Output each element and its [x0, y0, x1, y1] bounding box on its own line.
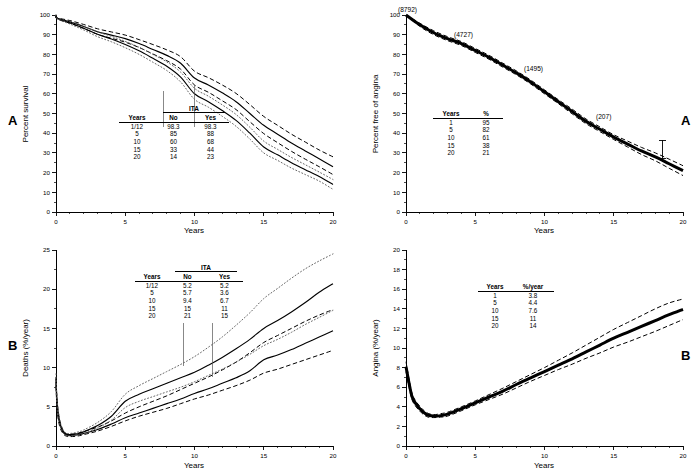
annotation-1495: (1495)	[524, 65, 543, 72]
svg-text:40: 40	[393, 129, 400, 136]
table-row: 1/1298.398.3	[119, 122, 229, 130]
table-cell: 21	[469, 149, 503, 157]
table-cell: 11	[512, 315, 554, 323]
table-cell: 95	[469, 118, 503, 126]
svg-text:30: 30	[393, 149, 400, 156]
svg-text:4: 4	[397, 403, 401, 410]
table-row: 2021	[433, 149, 503, 157]
inset-table-top-left: ITA Years No Yes 1/1298.398.358588106068…	[119, 105, 229, 161]
table-cell: 20	[433, 149, 469, 157]
svg-text:0: 0	[47, 442, 51, 449]
table-row: 2014	[478, 322, 554, 330]
table-header-row: Years %	[433, 110, 503, 118]
series-curve	[406, 320, 683, 418]
table-cell: 6.7	[206, 297, 243, 305]
table-row: 106068	[119, 138, 229, 146]
series-curve	[56, 310, 333, 435]
table-cell: 11	[206, 305, 243, 313]
col-years: Years	[433, 110, 469, 118]
col-yes: Yes	[192, 114, 229, 122]
svg-text:60: 60	[393, 90, 400, 97]
table-cell: 33	[155, 146, 192, 154]
svg-text:20: 20	[330, 452, 337, 459]
table-cell: 5	[119, 130, 155, 138]
svg-text:5: 5	[124, 452, 128, 459]
table-row: 582	[433, 126, 503, 134]
svg-text:10: 10	[191, 452, 198, 459]
table-cell: 23	[192, 153, 229, 161]
table-cell: 21	[169, 312, 206, 320]
col-percent: %	[469, 110, 503, 118]
svg-text:70: 70	[393, 70, 400, 77]
table-cell: 1/12	[119, 122, 155, 130]
x-axis-title-top-right: Years	[534, 226, 554, 235]
annotation-8792: (8792)	[398, 6, 417, 13]
svg-text:50: 50	[43, 110, 50, 117]
table-row: 1511	[478, 315, 554, 323]
table-row: 13.8	[478, 291, 554, 299]
table-cell: 98.3	[192, 122, 229, 130]
table-cell: 15	[478, 315, 512, 323]
svg-text:0: 0	[397, 208, 401, 215]
error-bar-top-right	[659, 140, 666, 158]
svg-text:0: 0	[54, 218, 58, 225]
svg-text:90: 90	[43, 31, 50, 38]
chart-top-right-angina-free: 0102030405060708090100 05101520 Percent …	[350, 0, 699, 238]
table-cell: 4.4	[512, 299, 554, 307]
y-axis-title-top-right: Percent free of angina	[371, 74, 380, 153]
col-years: Years	[135, 273, 169, 281]
svg-text:25: 25	[43, 246, 50, 253]
table-cell: 10	[478, 307, 512, 315]
col-years: Years	[478, 283, 512, 291]
svg-text:10: 10	[541, 452, 548, 459]
table-row: 109.46.7	[135, 297, 243, 305]
x-axis-title-bottom-left: Years	[184, 461, 204, 470]
table-row: 1/125.25.2	[135, 281, 243, 289]
chart-bottom-right-angina: 02468101214161820 05101520 Angina (%/yea…	[350, 238, 699, 475]
table-cell: 1	[478, 291, 512, 299]
leader-lines-bottom-left	[183, 323, 212, 377]
table-cell: 15	[433, 142, 469, 150]
table-cell: 68	[192, 138, 229, 146]
table-cell: 85	[155, 130, 192, 138]
svg-text:90: 90	[393, 31, 400, 38]
col-percent-year: %/year	[512, 283, 554, 291]
svg-text:14: 14	[393, 305, 400, 312]
table-row: 1061	[433, 134, 503, 142]
svg-text:12: 12	[393, 325, 400, 332]
svg-text:10: 10	[541, 218, 548, 225]
table-cell: 1	[433, 118, 469, 126]
svg-text:10: 10	[393, 189, 400, 196]
svg-text:100: 100	[40, 11, 51, 18]
table-row: 151511	[135, 305, 243, 313]
table-cell: 5	[433, 126, 469, 134]
svg-text:20: 20	[330, 218, 337, 225]
panel-letter-top-right: A	[681, 113, 690, 128]
panel-bottom-left: B 0510152025 05101520 Deaths (%/year) Ye…	[0, 238, 350, 475]
svg-text:2: 2	[397, 423, 401, 430]
svg-text:80: 80	[393, 51, 400, 58]
table-cell: 20	[119, 153, 155, 161]
table-cell: 60	[155, 138, 192, 146]
svg-text:0: 0	[54, 452, 58, 459]
table-cell: 98.3	[155, 122, 192, 130]
svg-text:0: 0	[397, 442, 401, 449]
svg-text:0: 0	[47, 208, 51, 215]
svg-text:18: 18	[393, 266, 400, 273]
panel-top-left: A 0102030405060708090100 05101520 Percen…	[0, 0, 350, 238]
table-row: 55.73.6	[135, 289, 243, 297]
svg-text:40: 40	[43, 129, 50, 136]
svg-text:5: 5	[47, 403, 51, 410]
table-cell: 88	[192, 130, 229, 138]
table-cell: 61	[469, 134, 503, 142]
panel-top-right: A 0102030405060708090100 05101520 Percen…	[350, 0, 699, 238]
svg-text:80: 80	[43, 51, 50, 58]
table-cell: 7.6	[512, 307, 554, 315]
y-axis-title-top-left: Percent survival	[21, 85, 30, 142]
table-row: 195	[433, 118, 503, 126]
table-cell: 5.7	[169, 289, 206, 297]
table-cell: 3.8	[512, 291, 554, 299]
table-cell: 82	[469, 126, 503, 134]
series-curve	[56, 331, 333, 436]
table-cell: 3.6	[206, 289, 243, 297]
